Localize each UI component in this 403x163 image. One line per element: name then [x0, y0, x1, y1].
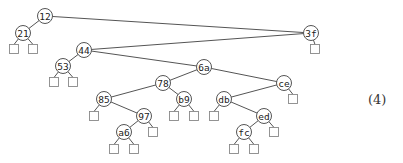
- node-key: a6: [118, 127, 130, 138]
- node-key: ed: [258, 111, 269, 122]
- equation-label: (4): [368, 92, 386, 107]
- null-leaf-square: [311, 45, 320, 54]
- tree-edge: [224, 83, 284, 99]
- tree-node-97: 97: [137, 109, 152, 124]
- tree-node-a6: a6: [117, 125, 132, 140]
- node-key: 44: [78, 45, 90, 56]
- tree-edge: [104, 83, 163, 99]
- tree-node-53: 53: [56, 59, 71, 74]
- tree-edge: [84, 33, 311, 50]
- tree-node-78: 78: [156, 76, 171, 91]
- tree-node-fc: fc: [237, 125, 252, 140]
- node-key: 3f: [305, 28, 316, 39]
- binary-tree-diagram: 12213f44536a78ce85b9db97eda6fc: [0, 0, 403, 163]
- node-key: ce: [278, 78, 290, 89]
- null-leaf-square: [130, 145, 139, 154]
- tree-node-21: 21: [16, 26, 31, 41]
- null-leaf-square: [149, 128, 158, 137]
- null-leaf-square: [170, 112, 179, 121]
- tree-edge: [45, 16, 311, 33]
- node-key: 78: [157, 78, 169, 89]
- null-leaf-square: [210, 112, 219, 121]
- null-leaf-square: [10, 45, 19, 54]
- null-leaf-square: [69, 78, 78, 87]
- null-leaf-square: [289, 95, 298, 104]
- node-key: 53: [57, 61, 68, 72]
- tree-node-ed: ed: [257, 109, 272, 124]
- null-leaf-square: [250, 145, 259, 154]
- tree-node-3f: 3f: [304, 26, 319, 41]
- tree-nodes: 12213f44536a78ce85b9db97eda6fc: [16, 9, 319, 140]
- tree-leaves: [10, 45, 320, 154]
- tree-node-12: 12: [38, 9, 53, 24]
- null-leaf-square: [50, 78, 59, 87]
- node-key: 85: [98, 94, 109, 105]
- null-leaf-square: [29, 45, 38, 54]
- node-key: 97: [138, 111, 149, 122]
- node-key: fc: [238, 127, 249, 138]
- tree-node-85: 85: [97, 92, 112, 107]
- tree-node-ce: ce: [277, 76, 292, 91]
- tree-node-44: 44: [77, 43, 92, 58]
- null-leaf-square: [90, 112, 99, 121]
- null-leaf-square: [190, 112, 199, 121]
- tree-node-b9: b9: [177, 92, 192, 107]
- tree-edge: [84, 50, 204, 67]
- null-leaf-square: [270, 128, 279, 137]
- node-key: b9: [178, 94, 190, 105]
- null-leaf-square: [230, 145, 239, 154]
- tree-node-6a: 6a: [197, 60, 212, 75]
- node-key: 12: [39, 11, 50, 22]
- tree-edge: [204, 67, 284, 83]
- node-key: 6a: [198, 62, 209, 73]
- tree-node-db: db: [217, 92, 232, 107]
- node-key: db: [218, 94, 230, 105]
- null-leaf-square: [110, 145, 119, 154]
- node-key: 21: [17, 28, 29, 39]
